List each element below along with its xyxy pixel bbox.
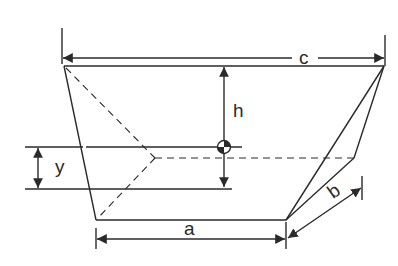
trapezoid-diagram: c h y a b	[0, 0, 398, 266]
hidden-edges	[66, 68, 354, 219]
label-b: b	[323, 179, 344, 202]
label-c: c	[299, 47, 309, 68]
hidden-edge-upper	[66, 68, 155, 158]
centroid-icon	[218, 141, 231, 154]
left-edge	[64, 66, 96, 220]
right-back-edge-upper	[354, 66, 384, 158]
label-h: h	[233, 100, 244, 121]
label-y: y	[55, 156, 65, 177]
label-a: a	[184, 218, 195, 239]
dimension-line-b	[288, 188, 361, 238]
dimension-c	[62, 28, 385, 66]
